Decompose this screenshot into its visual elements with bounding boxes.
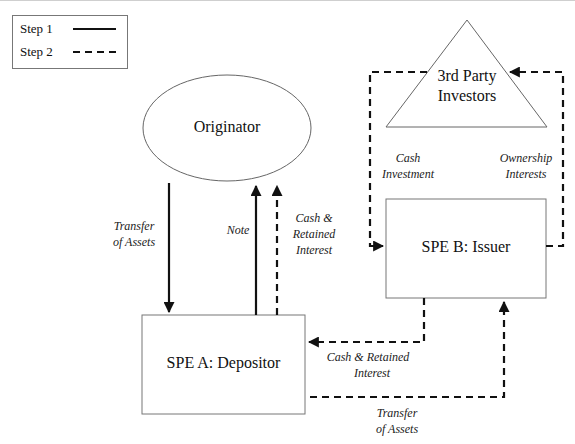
originator-label: Originator [143,118,311,136]
label-transfer-assets-2: Transfer of Assets [362,405,432,437]
label-line: Cash & [284,210,344,226]
label-line: of Assets [104,234,164,250]
label-line: Interest [318,365,418,381]
label-cash-investment: Cash Investment [372,150,444,182]
label-line: Note [222,222,254,238]
label-line: of Assets [362,421,432,437]
investors-label-line1: 3rd Party [407,66,527,86]
legend: Step 1 Step 2 [12,15,128,69]
label-line: Cash [372,150,444,166]
label-line: Cash & Retained [318,349,418,365]
arrow-cash-retained-2 [309,298,424,342]
label-line: Investment [372,166,444,182]
label-cash-retained-2: Cash & Retained Interest [318,349,418,381]
label-note: Note [222,222,254,238]
investors-label-line2: Investors [407,86,527,106]
label-cash-retained-1: Cash & Retained Interest [284,210,344,258]
label-transfer-assets-1: Transfer of Assets [104,218,164,250]
label-line: Interest [284,242,344,258]
spe-b-label: SPE B: Issuer [386,238,546,256]
investors-label: 3rd Party Investors [407,66,527,106]
spe-a-label: SPE A: Depositor [142,354,305,372]
label-ownership-interests: Ownership Interests [490,150,562,182]
label-line: Retained [284,226,344,242]
label-line: Transfer [104,218,164,234]
legend-step-1-label: Step 1 [20,21,53,37]
legend-step-2-label: Step 2 [20,44,53,60]
label-line: Transfer [362,405,432,421]
label-line: Interests [490,166,562,182]
label-line: Ownership [490,150,562,166]
